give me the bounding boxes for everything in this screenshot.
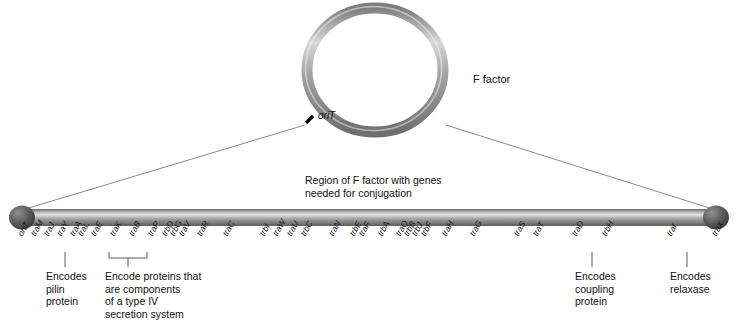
note-leader-lines [65, 252, 687, 267]
note-line: Encodes [46, 270, 87, 283]
note-encodes-coupling-protein: Encodes coupling protein [575, 270, 616, 308]
orit-tick-mark [306, 116, 313, 123]
note-line: protein [575, 295, 616, 308]
note-line: of a type IV [105, 295, 201, 308]
note-type-iv-secretion-system: Encode proteins that are components of a… [105, 270, 201, 320]
note-line: secretion system [105, 308, 201, 321]
region-caption-line-1: Region of F factor with genes [305, 174, 442, 187]
note-line: coupling [575, 283, 616, 296]
note-line: pilin [46, 283, 87, 296]
region-caption: Region of F factor with genes needed for… [305, 174, 442, 199]
f-factor-diagram: F factor oriT Region of F factor with ge… [0, 0, 739, 323]
note-line: Encode proteins that [105, 270, 201, 283]
note-line: are components [105, 283, 201, 296]
note-line: Encodes [670, 270, 711, 283]
note-encodes-relaxase: Encodes relaxase [670, 270, 711, 295]
note-line: relaxase [670, 283, 711, 296]
note-line: protein [46, 295, 87, 308]
note-line: Encodes [575, 270, 616, 283]
orit-label: oriT [318, 110, 335, 122]
note-encodes-pilin-protein: Encodes pilin protein [46, 270, 87, 308]
f-factor-title: F factor [473, 73, 510, 86]
region-caption-line-2: needed for conjugation [305, 187, 442, 200]
